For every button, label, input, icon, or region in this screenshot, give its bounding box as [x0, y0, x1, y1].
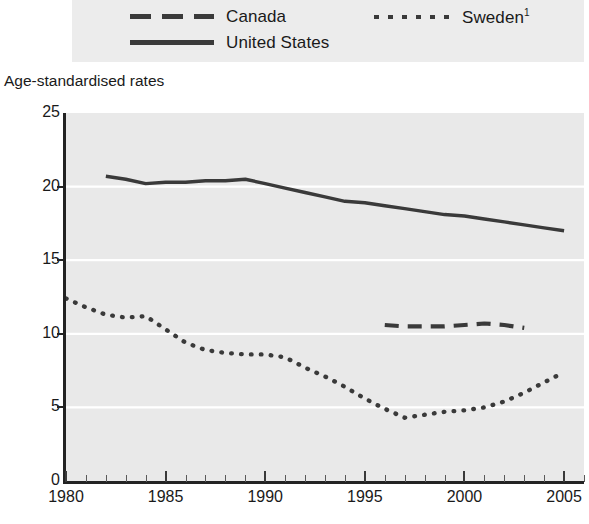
x-tick-minor-mark	[106, 475, 107, 482]
x-tick-major-mark	[364, 471, 366, 482]
legend-label-sweden: Sweden1	[462, 7, 530, 28]
x-tick-label: 2005	[529, 488, 589, 506]
x-tick-minor-mark	[445, 475, 446, 482]
legend-label-united-states: United States	[226, 33, 329, 53]
data-series-layer	[66, 176, 564, 417]
y-axis-line	[63, 113, 66, 482]
x-tick-minor-mark	[325, 475, 326, 482]
x-axis-line	[63, 481, 584, 484]
legend-label-sweden-footnote-marker: 1	[524, 7, 530, 18]
x-tick-major-mark	[165, 471, 167, 482]
y-tick-mark	[57, 406, 66, 408]
legend-entry-united-states: United States	[130, 30, 329, 56]
x-tick-minor-mark	[285, 475, 286, 482]
legend-key-solid-icon	[130, 34, 214, 52]
gridlines	[66, 113, 584, 407]
legend-label-sweden-text: Sweden	[462, 7, 524, 26]
x-tick-label: 1980	[31, 488, 101, 506]
x-tick-minor-mark	[385, 475, 386, 482]
plot-wrapper: 0510152025 198019851990199520002005	[0, 100, 584, 524]
series-line-sweden	[66, 298, 564, 417]
plot-canvas	[66, 113, 584, 481]
x-tick-major-mark	[264, 471, 266, 482]
legend-entry-canada: Canada	[130, 4, 286, 30]
y-axis-title: Age-standardised rates	[4, 72, 164, 90]
x-tick-minor-mark	[484, 475, 485, 482]
series-line-united-states	[106, 176, 564, 230]
x-tick-minor-mark	[305, 475, 306, 482]
y-tick-label: 25	[20, 103, 60, 121]
x-tick-minor-mark	[225, 475, 226, 482]
plot-area	[66, 113, 584, 481]
y-tick-label: 10	[20, 324, 60, 342]
y-tick-label: 15	[20, 250, 60, 268]
x-tick-minor-mark	[524, 475, 525, 482]
x-tick-minor-mark	[146, 475, 147, 482]
x-tick-major-mark	[65, 471, 67, 482]
x-tick-minor-mark	[425, 475, 426, 482]
x-tick-major-mark	[563, 471, 565, 482]
y-tick-label: 5	[20, 397, 60, 415]
chart-legend: Canada United States Sweden1	[72, 0, 584, 62]
x-tick-minor-mark	[186, 475, 187, 482]
y-tick-mark	[57, 186, 66, 188]
x-tick-minor-mark	[584, 475, 585, 482]
x-tick-major-mark	[463, 471, 465, 482]
x-tick-minor-mark	[504, 475, 505, 482]
x-tick-label: 1990	[230, 488, 300, 506]
legend-label-canada: Canada	[226, 7, 286, 27]
y-tick-mark	[57, 259, 66, 261]
x-tick-minor-mark	[245, 475, 246, 482]
x-tick-label: 1985	[131, 488, 201, 506]
x-tick-minor-mark	[205, 475, 206, 482]
x-tick-minor-mark	[126, 475, 127, 482]
legend-key-dashed-icon	[130, 8, 214, 26]
series-line-canada	[385, 324, 524, 328]
x-tick-label: 2000	[429, 488, 499, 506]
legend-entry-sweden: Sweden1	[366, 4, 530, 30]
y-tick-mark	[57, 333, 66, 335]
x-tick-minor-mark	[405, 475, 406, 482]
y-tick-label: 0	[20, 471, 60, 489]
x-tick-minor-mark	[345, 475, 346, 482]
x-tick-label: 1995	[330, 488, 400, 506]
x-tick-minor-mark	[86, 475, 87, 482]
y-tick-label: 20	[20, 177, 60, 195]
x-tick-minor-mark	[544, 475, 545, 482]
legend-key-dotted-icon	[366, 8, 450, 26]
